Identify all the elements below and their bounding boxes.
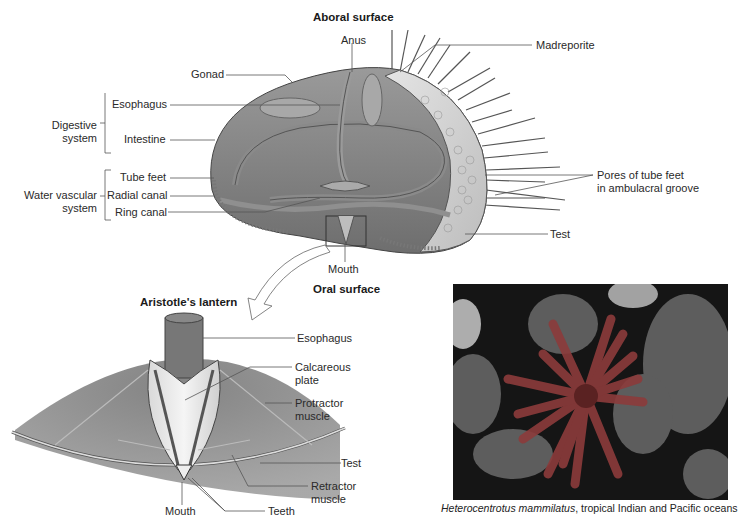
- lantern-label-mouth: Mouth: [165, 505, 196, 518]
- lantern-label-protractor-muscle: Protractor muscle: [295, 397, 343, 423]
- photo-caption: Heterocentrotus mammilatus, tropical Ind…: [441, 502, 737, 514]
- lantern-label-test: Test: [341, 457, 361, 470]
- caption-location: , tropical Indian and Pacific oceans: [575, 502, 737, 514]
- label-tube-feet: Tube feet: [120, 171, 166, 184]
- label-pores: Pores of tube feet in ambulacral groove: [597, 169, 699, 195]
- sea-urchin-photo: [453, 284, 728, 500]
- oral-surface-title: Oral surface: [313, 283, 380, 295]
- caption-species: Heterocentrotus mammilatus: [441, 502, 575, 514]
- label-ring-canal: Ring canal: [115, 206, 167, 219]
- label-madreporite: Madreporite: [536, 39, 595, 52]
- aristotles-lantern-title: Aristotle's lantern: [140, 296, 237, 308]
- label-radial-canal: Radial canal: [107, 189, 168, 202]
- lantern-label-teeth: Teeth: [268, 505, 295, 518]
- aboral-surface-title: Aboral surface: [313, 11, 394, 23]
- lantern-label-esophagus: Esophagus: [297, 332, 352, 345]
- label-intestine: Intestine: [124, 133, 166, 146]
- label-gonad: Gonad: [191, 68, 224, 81]
- group-digestive: Digestive system: [40, 119, 97, 145]
- lantern-label-retractor-muscle: Retractor muscle: [311, 480, 356, 506]
- label-anus: Anus: [341, 34, 366, 47]
- group-water-vascular: Water vascular system: [10, 189, 97, 215]
- label-test: Test: [550, 228, 570, 241]
- lantern-label-calcareous-plate: Calcareous plate: [295, 361, 351, 387]
- label-esophagus: Esophagus: [112, 98, 167, 111]
- photo-illustration: [453, 284, 728, 500]
- label-mouth: Mouth: [328, 263, 359, 276]
